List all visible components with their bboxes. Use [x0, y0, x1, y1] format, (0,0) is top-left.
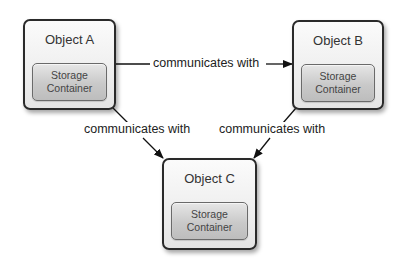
storage-label-line1: Storage	[172, 208, 247, 221]
object-c-title: Object C	[164, 171, 255, 186]
object-c-node[interactable]: Object C Storage Container	[162, 158, 257, 250]
storage-label-line2: Container	[172, 221, 247, 234]
object-b-title: Object B	[294, 33, 382, 48]
storage-label-line1: Storage	[302, 70, 374, 83]
object-b-storage-container[interactable]: Storage Container	[301, 64, 375, 102]
edge-label-a-to-c: communicates with	[82, 122, 192, 136]
edge-label-b-to-c: communicates with	[217, 122, 327, 136]
storage-label-line2: Container	[33, 82, 106, 95]
object-a-node[interactable]: Object A Storage Container	[23, 19, 116, 110]
storage-label-line2: Container	[302, 83, 374, 96]
object-b-node[interactable]: Object B Storage Container	[292, 20, 384, 110]
object-a-title: Object A	[25, 32, 114, 47]
edge-label-a-to-b: communicates with	[151, 56, 261, 70]
object-a-storage-container[interactable]: Storage Container	[32, 63, 107, 101]
object-c-storage-container[interactable]: Storage Container	[171, 202, 248, 240]
storage-label-line1: Storage	[33, 69, 106, 82]
